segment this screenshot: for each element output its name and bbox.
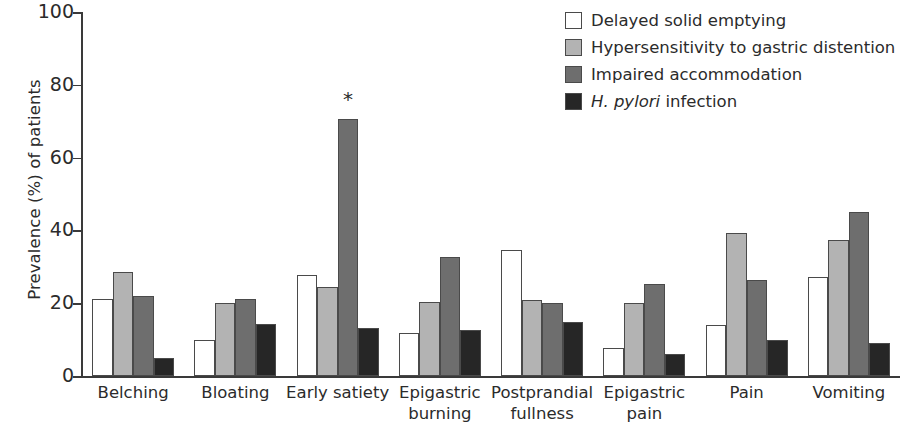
legend-label: H. pylori infection: [591, 92, 737, 111]
bar: [92, 299, 113, 376]
bar: [358, 328, 379, 376]
chart-legend: Delayed solid emptyingHypersensitivity t…: [565, 9, 895, 112]
legend-item: H. pylori infection: [565, 90, 895, 112]
y-axis-tick-labels: 100806040200: [12, 0, 74, 441]
bar: [460, 330, 481, 376]
bar: [603, 348, 624, 376]
bar: [828, 240, 849, 376]
bar-chart: Prevalence (%) of patients 100806040200 …: [0, 0, 902, 441]
bar: [338, 119, 359, 376]
y-tickmark-0: [73, 376, 81, 378]
bar: [869, 343, 890, 376]
bar: [767, 340, 788, 376]
legend-label: Delayed solid emptying: [591, 11, 786, 30]
x-axis-label: Vomiting: [786, 382, 902, 403]
bar: [644, 284, 665, 376]
legend-item: Hypersensitivity to gastric distention: [565, 36, 895, 58]
bar: [563, 322, 584, 376]
y-axis-tick-0: 0: [28, 366, 74, 385]
legend-item: Delayed solid emptying: [565, 9, 895, 31]
legend-swatch-icon: [565, 93, 582, 110]
bar: [297, 275, 318, 376]
bar: [624, 303, 645, 376]
y-axis-tick-80: 80: [28, 75, 74, 94]
bar: [808, 277, 829, 376]
bar: [215, 303, 236, 376]
bar: [133, 296, 154, 376]
y-tickmark-40: [73, 230, 81, 232]
significance-asterisk: *: [343, 89, 353, 109]
x-axis-line: [81, 376, 900, 378]
legend-label: Impaired accommodation: [591, 65, 802, 84]
bar: [726, 233, 747, 376]
x-axis-tick-labels: BelchingBloatingEarly satietyEpigastric …: [82, 382, 900, 440]
y-tickmark-100: [73, 12, 81, 14]
y-tickmark-20: [73, 303, 81, 305]
y-tickmark-80: [73, 85, 81, 87]
legend-swatch-icon: [565, 12, 582, 29]
bar-group: [184, 12, 286, 376]
bar-group: [287, 12, 389, 376]
y-axis-tick-40: 40: [28, 220, 74, 239]
bar: [706, 325, 727, 376]
bar: [665, 354, 686, 376]
bar: [399, 333, 420, 376]
legend-item: Impaired accommodation: [565, 63, 895, 85]
bar: [419, 302, 440, 376]
bar: [194, 340, 215, 376]
bar: [542, 303, 563, 376]
bar: [747, 280, 768, 376]
y-axis-tick-60: 60: [28, 148, 74, 167]
legend-swatch-icon: [565, 39, 582, 56]
bar: [113, 272, 134, 376]
bar-group: [82, 12, 184, 376]
bar-group: [389, 12, 491, 376]
bar: [849, 212, 870, 376]
legend-label: Hypersensitivity to gastric distention: [591, 38, 895, 57]
bar: [317, 287, 338, 376]
bar: [235, 299, 256, 376]
bar: [256, 324, 277, 376]
bar: [440, 257, 461, 376]
legend-swatch-icon: [565, 66, 582, 83]
y-tickmark-60: [73, 158, 81, 160]
bar: [522, 300, 543, 376]
bar: [501, 250, 522, 376]
bar: [154, 358, 175, 376]
y-axis-tick-20: 20: [28, 293, 74, 312]
y-axis-tick-100: 100: [28, 2, 74, 21]
